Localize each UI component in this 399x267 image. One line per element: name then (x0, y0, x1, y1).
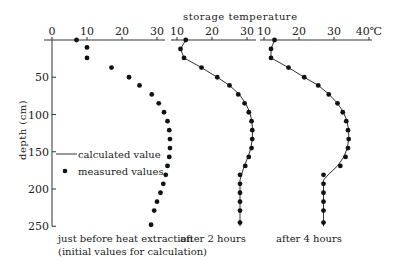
measured-point (344, 119, 349, 124)
measured-point (85, 45, 90, 50)
measured-point (168, 137, 173, 142)
measured-point (85, 55, 90, 60)
measured-point (238, 199, 243, 204)
measured-point (168, 146, 173, 151)
measured-point (158, 190, 163, 195)
measured-point (269, 47, 274, 52)
measured-point (269, 55, 274, 60)
panel-caption: (initial values for calculation) (58, 246, 207, 257)
measured-point (162, 110, 167, 115)
x-tick-label: 40℃ (356, 25, 382, 38)
measured-point (250, 128, 255, 133)
measured-point (243, 164, 248, 169)
measured-point (346, 146, 351, 151)
measured-point (227, 83, 232, 88)
measured-point (250, 137, 255, 142)
measured-point (316, 83, 321, 88)
measured-point (238, 172, 243, 177)
measured-point (167, 155, 172, 160)
x-tick-label: 10 (257, 25, 271, 38)
legend: calculated value measured values (56, 149, 164, 177)
measured-point (321, 199, 326, 204)
measured-point (163, 172, 168, 177)
measured-point (74, 38, 79, 43)
measured-point (321, 172, 326, 177)
measured-point (238, 190, 243, 195)
y-axis-title: depth (cm) (17, 100, 28, 160)
x-axis-title: storage temperature (183, 11, 298, 22)
x-tick-label: 30 (327, 25, 341, 38)
x-tick-label: 10 (170, 25, 184, 38)
measured-point (182, 55, 187, 60)
x-tick-label: 0 (49, 25, 56, 38)
x-tick-label: 20 (205, 25, 219, 38)
measured-point (335, 101, 340, 106)
measured-point (302, 75, 307, 80)
measured-point (272, 38, 277, 43)
measured-point (109, 65, 114, 70)
captions: just before heat extraction(initial valu… (57, 233, 342, 257)
y-tick-label: 150 (28, 146, 49, 159)
x-tick-label: 30 (240, 25, 254, 38)
x-tick-label: 20 (292, 25, 306, 38)
chart: 50100150200250010203010203010203040℃ sto… (0, 0, 399, 267)
measured-point (161, 181, 166, 186)
measured-point (238, 220, 243, 225)
measured-point (156, 101, 161, 106)
panel-caption: after 2 hours (180, 233, 246, 244)
measured-point (346, 128, 351, 133)
measured-point (346, 137, 351, 142)
measured-point (321, 208, 326, 213)
measured-point (340, 110, 345, 115)
measured-point (238, 181, 243, 186)
measured-point (149, 222, 154, 227)
measured-point (149, 92, 154, 97)
measured-point (127, 75, 132, 80)
x-tick-label: 10 (80, 25, 94, 38)
measured-point (338, 164, 343, 169)
y-tick-label: 250 (28, 220, 49, 233)
calculated-curve (181, 40, 253, 226)
measured-point (321, 220, 326, 225)
measured-point (246, 155, 251, 160)
calculated-curve (271, 40, 349, 226)
measured-point (249, 119, 254, 124)
legend-label-measured: measured values (78, 166, 164, 177)
measured-point (137, 83, 142, 88)
measured-point (246, 110, 251, 115)
measured-point (165, 164, 170, 169)
panel-caption: after 4 hours (276, 233, 342, 244)
marks (74, 38, 351, 228)
measured-point (155, 199, 160, 204)
measured-point (215, 75, 220, 80)
legend-dot-marker (63, 169, 68, 174)
measured-point (165, 119, 170, 124)
measured-point (321, 181, 326, 186)
measured-point (236, 92, 241, 97)
measured-point (249, 146, 254, 151)
y-tick-label: 50 (35, 71, 49, 84)
measured-point (326, 92, 331, 97)
measured-point (321, 190, 326, 195)
measured-point (183, 38, 188, 43)
measured-point (199, 65, 204, 70)
y-tick-label: 200 (28, 183, 49, 196)
measured-point (238, 208, 243, 213)
y-tick-label: 100 (28, 109, 49, 122)
measured-point (152, 208, 157, 213)
measured-point (167, 128, 172, 133)
axes: 50100150200250010203010203010203040℃ (28, 25, 382, 233)
measured-point (343, 155, 348, 160)
measured-point (178, 47, 183, 52)
measured-point (242, 101, 247, 106)
x-tick-label: 30 (150, 25, 164, 38)
panel-caption: just before heat extraction (57, 233, 193, 244)
measured-point (286, 65, 291, 70)
x-tick-label: 20 (115, 25, 129, 38)
legend-label-calculated: calculated value (78, 149, 161, 160)
